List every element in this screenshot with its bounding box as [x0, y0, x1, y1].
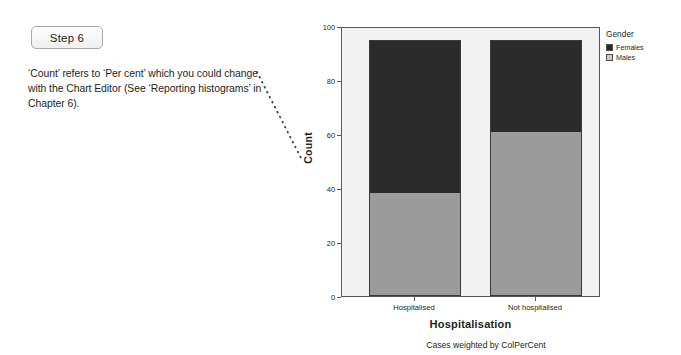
y-tick-label-60: 60 — [327, 130, 337, 139]
legend-title: Gender — [606, 30, 644, 39]
y-tick-label-20: 20 — [327, 238, 337, 247]
y-axis-title: Count — [302, 132, 316, 164]
annotation-note-text: ‘Count’ refers to ‘Per cent’ which you c… — [28, 67, 264, 111]
legend-item-males[interactable]: Males — [606, 53, 644, 62]
x-tick-label-hospitalised: Hospitalised — [393, 303, 434, 312]
step-badge: Step 6 — [31, 26, 103, 49]
y-tick-label-0: 0 — [331, 292, 337, 301]
legend-label-males: Males — [616, 53, 635, 62]
bar-segment-males[interactable] — [370, 193, 460, 295]
spss-bar-chart: 0 20 40 60 80 100 Count — [300, 20, 681, 350]
bar-group-hospitalised — [369, 28, 461, 296]
y-tick-label-40: 40 — [327, 184, 337, 193]
legend-item-females[interactable]: Females — [606, 43, 644, 52]
stacked-bar-hospitalised[interactable] — [369, 40, 461, 296]
bar-segment-males[interactable] — [491, 132, 581, 295]
plot-frame — [341, 27, 600, 297]
step-badge-label: Step 6 — [50, 32, 84, 44]
legend-label-females: Females — [616, 43, 644, 52]
x-axis-title: Hospitalisation — [341, 318, 600, 330]
x-tick-mark-not-hospitalised — [535, 297, 536, 301]
plot-area — [342, 28, 599, 296]
bar-group-not-hospitalised — [490, 28, 582, 296]
y-tick-label-80: 80 — [327, 76, 337, 85]
x-tick-mark-hospitalised — [414, 297, 415, 301]
legend-swatch-males-icon — [606, 54, 613, 61]
bar-segment-females[interactable] — [491, 41, 581, 132]
y-tick-label-100: 100 — [323, 22, 337, 31]
stacked-bar-not-hospitalised[interactable] — [490, 40, 582, 296]
chart-footnote: Cases weighted by ColPerCent — [341, 340, 631, 350]
legend-swatch-females-icon — [606, 44, 613, 51]
x-tick-label-not-hospitalised: Not hospitalised — [508, 303, 562, 312]
chart-legend: Gender Females Males — [606, 30, 644, 63]
bar-segment-females[interactable] — [370, 41, 460, 193]
